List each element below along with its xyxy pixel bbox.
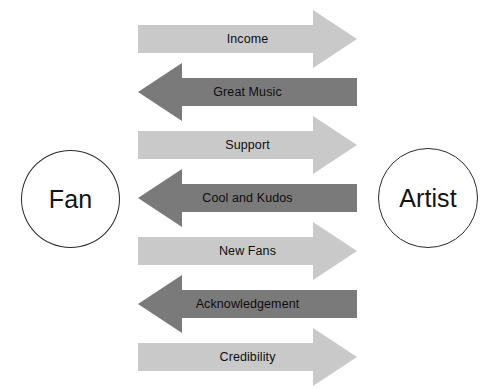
arrow-polygon — [138, 169, 357, 227]
node-fan: Fan — [21, 150, 120, 248]
flow-arrow-left: Cool and Kudos — [138, 169, 357, 227]
arrow-shape — [138, 222, 357, 280]
arrow-polygon — [138, 116, 357, 174]
arrow-shape — [138, 63, 357, 121]
node-artist: Artist — [378, 148, 478, 248]
flow-arrow-right: Support — [138, 116, 357, 174]
arrow-shape — [138, 10, 357, 68]
flow-arrow-right: New Fans — [138, 222, 357, 280]
flow-arrow-left: Acknowledgement — [138, 275, 357, 333]
arrow-shape — [138, 275, 357, 333]
arrow-polygon — [138, 10, 357, 68]
node-artist-label: Artist — [399, 186, 457, 211]
flow-arrow-left: Great Music — [138, 63, 357, 121]
arrow-polygon — [138, 275, 357, 333]
node-fan-label: Fan — [49, 187, 92, 212]
arrow-polygon — [138, 328, 357, 386]
arrow-polygon — [138, 63, 357, 121]
arrow-shape — [138, 169, 357, 227]
diagram-canvas: Fan Artist IncomeGreat MusicSupportCool … — [0, 0, 499, 389]
arrow-polygon — [138, 222, 357, 280]
arrow-shape — [138, 328, 357, 386]
flow-arrow-right: Credibility — [138, 328, 357, 386]
arrow-shape — [138, 116, 357, 174]
flow-arrow-right: Income — [138, 10, 357, 68]
